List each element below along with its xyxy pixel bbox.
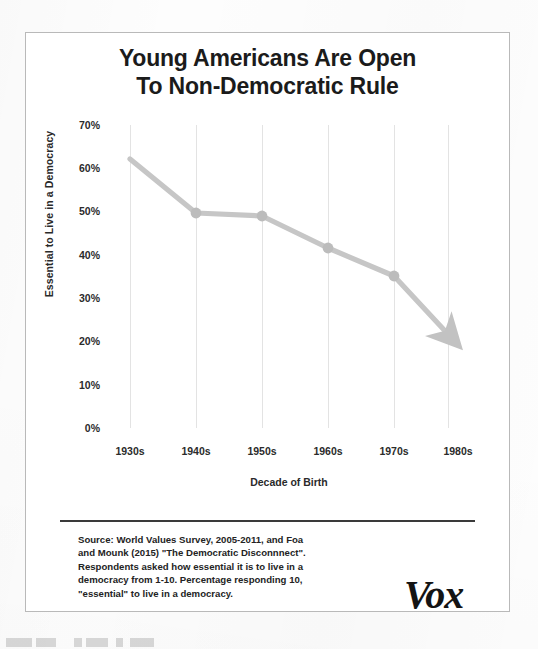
plot-area: Essential to Live in a Democracy 70% 60%…	[26, 33, 511, 503]
x-tick-1980s: 1980s	[423, 445, 493, 457]
y-tick-20: 20%	[54, 335, 100, 347]
source-line-5: "essential" to live in a democracy.	[78, 587, 368, 600]
chart-card: Young Americans Are Open To Non-Democrat…	[25, 32, 510, 612]
y-tick-50: 50%	[54, 205, 100, 217]
scan-artifact-4	[86, 638, 108, 647]
data-point-1940s	[191, 208, 202, 219]
x-tick-1950s: 1950s	[227, 445, 297, 457]
scan-artifact-3	[74, 638, 82, 647]
data-point-1960s	[323, 243, 334, 254]
y-tick-30: 30%	[54, 292, 100, 304]
y-tick-0: 0%	[54, 422, 100, 434]
footer-divider	[60, 520, 475, 522]
data-point-1970s	[389, 271, 400, 282]
x-tick-1970s: 1970s	[359, 445, 429, 457]
scan-artifact-2	[36, 638, 56, 647]
vox-logo: Vox	[404, 573, 490, 617]
y-tick-10: 10%	[54, 379, 100, 391]
x-tick-1940s: 1940s	[161, 445, 231, 457]
scan-artifact-5	[116, 638, 123, 647]
scan-artifact-6	[130, 638, 154, 647]
source-line-2: and Mounk (2015) "The Democratic Disconn…	[78, 546, 368, 559]
source-line-4: democracy from 1-10. Percentage respondi…	[78, 573, 368, 586]
source-line-3: Respondents asked how essential it is to…	[78, 560, 368, 573]
y-tick-40: 40%	[54, 249, 100, 261]
data-point-1950s	[257, 211, 268, 222]
x-tick-1960s: 1960s	[293, 445, 363, 457]
y-tick-60: 60%	[54, 162, 100, 174]
x-axis-title: Decade of Birth	[108, 476, 470, 488]
y-tick-70: 70%	[54, 119, 100, 131]
scan-artifact-1	[6, 638, 32, 647]
x-tick-1930s: 1930s	[95, 445, 165, 457]
y-axis-ticks: 70% 60% 50% 40% 30% 20% 10% 0%	[54, 33, 100, 503]
line-series-chart	[108, 119, 478, 439]
series-line	[130, 159, 446, 332]
source-note: Source: World Values Survey, 2005-2011, …	[78, 533, 368, 600]
source-line-1: Source: World Values Survey, 2005-2011, …	[78, 533, 368, 546]
x-axis-ticks: 1930s 1940s 1950s 1960s 1970s 1980s	[108, 445, 470, 465]
